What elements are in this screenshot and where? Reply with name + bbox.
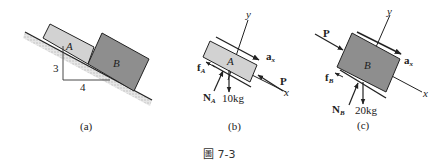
figure-svg: A B 3 4 (a) y x A ax fA NA 10kg P (b)	[0, 0, 448, 167]
x-axis-label: x	[422, 87, 428, 99]
normal-label: NB	[332, 103, 345, 117]
panel-b-label: (b)	[228, 120, 241, 133]
normal-arrow	[214, 71, 223, 91]
accel-label: ax	[266, 50, 276, 64]
block-a-label: A	[65, 40, 73, 52]
panel-a-label: (a)	[80, 120, 93, 133]
friction-label: fB	[325, 71, 334, 85]
weight-label: 20kg	[355, 104, 378, 116]
slope-run-label: 4	[80, 81, 86, 93]
weight-label: 10kg	[222, 92, 245, 104]
figure-7-3: A B 3 4 (a) y x A ax fA NA 10kg P (b)	[0, 0, 448, 167]
panel-c-label: (c)	[357, 119, 370, 132]
x-axis-label: x	[283, 86, 289, 98]
force-p-label: P	[280, 75, 287, 87]
friction-label: fA	[197, 61, 206, 75]
panel-b: y x A ax fA NA 10kg P (b)	[197, 8, 289, 133]
x-axis	[390, 75, 422, 92]
normal-arrow	[349, 83, 358, 105]
y-axis-label: y	[245, 8, 251, 20]
block-b-label: B	[113, 57, 120, 69]
force-p-label: P	[323, 27, 330, 39]
accel-label: ax	[404, 54, 414, 68]
panel-a: A B 3 4 (a)	[23, 24, 152, 133]
panel-c: y x B ax fB NB 20kg P (c)	[315, 5, 428, 132]
normal-label: NA	[203, 91, 216, 105]
figure-caption: 圖 7-3	[203, 148, 235, 161]
block-label: B	[364, 59, 371, 71]
friction-arrow	[335, 73, 343, 77]
block-label: A	[226, 55, 234, 67]
y-axis-label: y	[386, 5, 392, 17]
slope-rise-label: 3	[53, 62, 59, 74]
